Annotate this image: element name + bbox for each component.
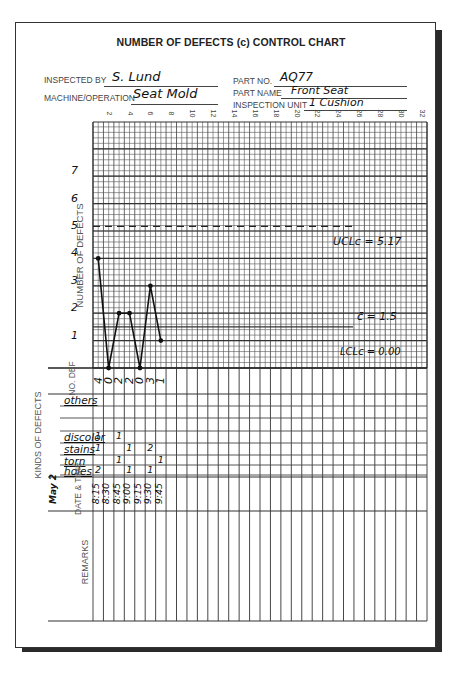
y-tick-label: 4 xyxy=(71,246,78,259)
y-tick-label: 2 xyxy=(71,301,78,314)
y-tick-label: 6 xyxy=(71,192,78,205)
data-point xyxy=(138,366,143,371)
time-cell: 8:30 xyxy=(101,483,112,504)
remarks-label: REMARKS xyxy=(80,532,90,592)
x-tick-label: 8 xyxy=(168,106,175,122)
x-tick-label: 24 xyxy=(335,106,342,122)
tally-cell-stains: 2 xyxy=(147,442,153,453)
chart-grid xyxy=(0,0,462,676)
time-cell: 9:30 xyxy=(142,483,153,504)
x-tick-label: 22 xyxy=(314,106,321,122)
x-tick-label: 14 xyxy=(230,106,237,122)
data-point xyxy=(96,256,101,261)
date-value: May 2 xyxy=(48,474,58,504)
no-def-label: NO. DEF xyxy=(68,359,77,399)
x-tick-label: 18 xyxy=(272,106,279,122)
data-point xyxy=(127,311,132,316)
tally-cell-torn: 1 xyxy=(116,454,122,465)
tally-cell-holes: 1 xyxy=(147,464,153,475)
x-tick-label: 10 xyxy=(189,106,196,122)
x-tick-label: 26 xyxy=(356,106,363,122)
tally-cell-discolor: 1 xyxy=(95,430,101,441)
defect-kind-others: others xyxy=(64,394,97,406)
ucl-label: UCLc = 5.17 xyxy=(333,235,402,248)
y-tick-label: 1 xyxy=(71,329,78,342)
x-tick-label: 30 xyxy=(397,106,404,122)
lcl-label: LCLc = 0.00 xyxy=(340,346,401,357)
defect-kind-stains: stains xyxy=(64,443,95,455)
time-cell: 9:45 xyxy=(153,483,164,504)
x-tick-label: 28 xyxy=(377,106,384,122)
data-point xyxy=(106,366,111,371)
kinds-of-defects-label: KINDS OF DEFECTS xyxy=(33,385,43,485)
tally-cell-holes: 1 xyxy=(126,464,132,475)
x-tick-label: 4 xyxy=(126,106,133,122)
x-tick-label: 16 xyxy=(251,106,258,122)
data-point xyxy=(148,283,153,288)
x-tick-label: 32 xyxy=(418,106,425,122)
data-point xyxy=(158,338,163,343)
no-def-cell: 1 xyxy=(154,377,167,384)
tally-cell-stains: 1 xyxy=(95,442,101,453)
x-tick-label: 12 xyxy=(210,106,217,122)
y-tick-label: 3 xyxy=(71,274,78,287)
tally-cell-stains: 1 xyxy=(126,442,132,453)
tally-cell-torn: 1 xyxy=(158,454,164,465)
y-tick-label: 5 xyxy=(71,219,78,232)
x-tick-label: 2 xyxy=(105,106,112,122)
data-point xyxy=(117,311,122,316)
x-tick-label: 20 xyxy=(293,106,300,122)
tally-cell-holes: 2 xyxy=(95,464,101,475)
center-line-label: c̄ = 1.5 xyxy=(357,310,397,323)
x-tick-label: 6 xyxy=(147,106,154,122)
tally-cell-discolor: 1 xyxy=(116,430,122,441)
time-cell: 9:00 xyxy=(121,483,132,504)
y-tick-label: 7 xyxy=(71,164,78,177)
date-time-label: DATE & TIME xyxy=(73,471,83,515)
